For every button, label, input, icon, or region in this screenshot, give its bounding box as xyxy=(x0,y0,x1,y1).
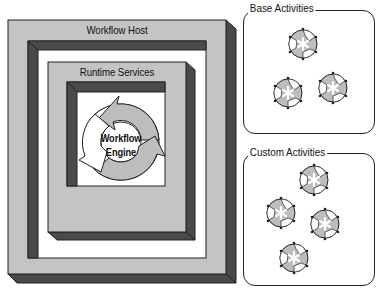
activity-icon xyxy=(280,242,309,275)
workflow-engine-label-line1: Workflow xyxy=(99,132,143,144)
custom-activities-icons xyxy=(240,140,385,290)
activity-icon xyxy=(319,72,348,105)
activity-icon xyxy=(267,197,296,230)
runtime-services-label: Runtime Services xyxy=(69,66,166,78)
activity-icon xyxy=(289,28,318,61)
base-activities-icons xyxy=(240,0,385,140)
activity-icon xyxy=(311,208,340,241)
activity-icon xyxy=(274,77,303,110)
workflow-engine-label-line2: Engine xyxy=(99,146,143,158)
workflow-host-label: Workflow Host xyxy=(73,24,161,36)
activity-icon xyxy=(300,164,329,197)
workflow-host-diagram xyxy=(0,0,240,290)
